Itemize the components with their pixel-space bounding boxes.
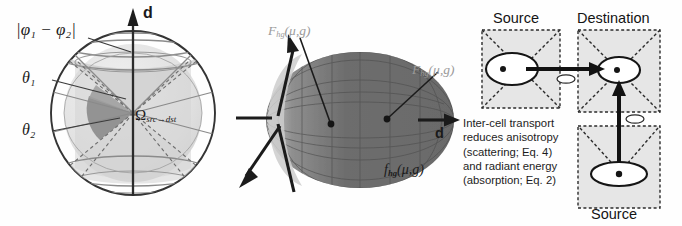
caption-line: Inter-cell transport [463,116,581,130]
destination-lobe-center [614,67,620,73]
F-hg-right-label: Fhg(μ,g) [412,62,455,78]
source-lobe-bottom-center [616,171,622,177]
caption-line: (scattering; Eq. 4) [463,145,581,159]
heading-destination: Destination [577,10,650,26]
leader-dot-upper [328,121,335,128]
f-hg-lower-label: fhg(μ,g) [384,162,424,178]
d-axis-label: d [143,4,153,22]
vertical-small-lobe [626,115,644,123]
phi-difference-label: |φ₁ − φ₂| [16,20,76,40]
lobe-diagram [232,0,464,226]
d-axis-label-mid: d [435,125,444,141]
transport-caption: Inter-cell transport reduces anisotropy … [463,116,581,187]
caption-line: and radiant energy [463,159,581,173]
panel-inter-cell-transport: Source Destination Source Inter-cell tra… [460,0,682,226]
theta2-label: θ₂ [22,121,35,139]
heading-source-top: Source [493,10,539,26]
theta1-label: θ₁ [22,69,35,87]
transport-diagram [460,0,682,226]
omega-src-dst-label: Ωsrc→dst [135,107,176,124]
F-hg-upper-label: Fhg(μ,g) [268,23,311,39]
caption-line: (absorption; Eq. 2) [463,173,581,187]
figure-root: |φ₁ − φ₂| θ₁ θ₂ Ωsrc→dst d [0,0,682,226]
source-lobe-top-center [500,66,506,72]
heading-source-bottom: Source [591,206,637,222]
panel-henyey-greenstein-lobe: Fhg(μ,g) Fhg(μ,g) fhg(μ,g) d [232,0,464,226]
d-axis-arrowhead [128,8,139,26]
leader-dot-right [384,116,391,123]
caption-line: reduces anisotropy [463,130,581,144]
panel-angular-domain-sphere: |φ₁ − φ₂| θ₁ θ₂ Ωsrc→dst d [0,0,232,226]
horizontal-small-lobe [557,75,575,83]
